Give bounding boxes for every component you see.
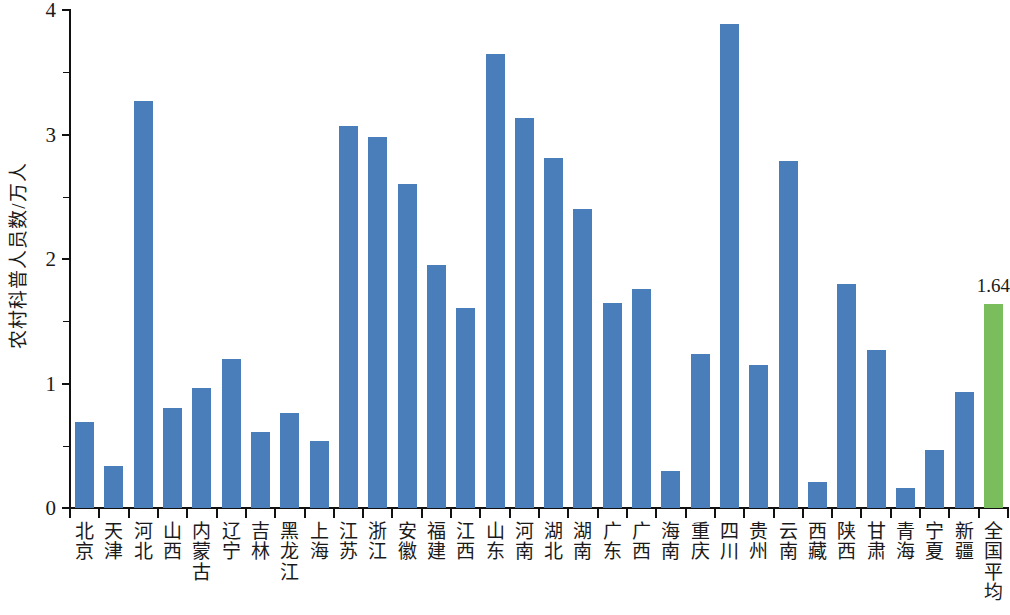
bar <box>427 265 446 508</box>
x-axis-category-label-char: 四 <box>717 522 743 542</box>
x-axis-tick <box>773 509 775 518</box>
x-axis-category-label: 黑龙江 <box>277 522 303 583</box>
x-axis-tick <box>567 509 569 518</box>
y-axis-minor-tick <box>63 446 71 447</box>
x-axis-category-label: 宁夏 <box>922 522 948 563</box>
y-axis-minor-tick <box>63 321 71 322</box>
x-axis-category-label: 上海 <box>306 522 332 563</box>
x-axis-tick <box>948 509 950 518</box>
y-axis-tick <box>62 9 71 11</box>
x-axis-category-label: 山东 <box>482 522 508 563</box>
bar-chart: 农村科普人员数/万人 01234 1.64 北京天津河北山西内蒙古辽宁吉林黑龙江… <box>0 0 1010 615</box>
x-axis-category-label: 江苏 <box>335 522 361 563</box>
y-axis-tick-label: 2 <box>28 249 56 270</box>
x-axis-category-label: 河北 <box>130 522 156 563</box>
x-axis-category-label-char: 州 <box>746 542 772 562</box>
y-axis-tick-label: 1 <box>28 373 56 394</box>
x-axis-category-label-char: 上 <box>306 522 332 542</box>
y-axis-tick <box>62 134 71 136</box>
x-axis-category-label-char: 广 <box>599 522 625 542</box>
x-axis-tick <box>421 509 423 518</box>
x-axis-tick <box>362 509 364 518</box>
x-axis-tick <box>186 509 188 518</box>
bar <box>720 24 739 508</box>
bar <box>779 161 798 508</box>
bar <box>75 422 94 508</box>
x-axis-category-label-char: 云 <box>775 522 801 542</box>
bar <box>661 471 680 508</box>
x-axis-category-label-char: 北 <box>130 542 156 562</box>
x-axis-category-label: 青海 <box>892 522 918 563</box>
bar <box>867 350 886 508</box>
bar <box>456 308 475 508</box>
x-axis-category-label: 天津 <box>101 522 127 563</box>
x-axis-category-label: 吉林 <box>248 522 274 563</box>
x-axis-category-label-char: 平 <box>980 563 1006 583</box>
bar <box>192 388 211 508</box>
x-axis-category-label-char: 国 <box>980 542 1006 562</box>
x-axis-tick <box>597 509 599 518</box>
x-axis-category-label-char: 徽 <box>394 542 420 562</box>
bar <box>808 482 827 508</box>
x-axis-category-label-char: 湖 <box>541 522 567 542</box>
bar <box>163 408 182 508</box>
x-axis-category-label: 海南 <box>658 522 684 563</box>
x-axis-category-label-char: 陕 <box>834 522 860 542</box>
bar <box>925 450 944 509</box>
x-axis-tick <box>831 509 833 518</box>
x-axis-category-label: 安徽 <box>394 522 420 563</box>
x-axis-category-label-char: 江 <box>453 522 479 542</box>
x-axis-category-label-char: 贵 <box>746 522 772 542</box>
x-axis-category-label: 贵州 <box>746 522 772 563</box>
x-axis-category-label-char: 西 <box>804 522 830 542</box>
bar <box>222 359 241 508</box>
x-axis-category-label-char: 建 <box>423 542 449 562</box>
x-axis-category-label: 西藏 <box>804 522 830 563</box>
x-axis-tick <box>128 509 130 518</box>
x-axis-category-label-char: 天 <box>101 522 127 542</box>
bar <box>134 101 153 508</box>
x-axis-category-label: 江西 <box>453 522 479 563</box>
x-axis-category-label-char: 南 <box>775 542 801 562</box>
x-axis-category-label-char: 河 <box>130 522 156 542</box>
x-axis-tick <box>890 509 892 518</box>
x-axis-category-label: 新疆 <box>951 522 977 563</box>
x-axis-category-label: 甘肃 <box>863 522 889 563</box>
x-axis-category-label: 四川 <box>717 522 743 563</box>
bar <box>280 413 299 508</box>
y-axis-tick-label: 4 <box>28 0 56 21</box>
x-axis-tick <box>802 509 804 518</box>
x-axis-category-label-char: 福 <box>423 522 449 542</box>
x-axis-category-label-char: 海 <box>892 542 918 562</box>
x-axis-category-label-char: 林 <box>248 542 274 562</box>
bar <box>251 432 270 508</box>
x-axis-category-label-char: 庆 <box>687 542 713 562</box>
x-axis-tick <box>157 509 159 518</box>
bar <box>573 209 592 508</box>
x-axis-category-label: 辽宁 <box>218 522 244 563</box>
x-axis-category-label: 湖北 <box>541 522 567 563</box>
x-axis-category-label-char: 东 <box>599 542 625 562</box>
x-axis-tick <box>479 509 481 518</box>
x-axis-category-label: 广东 <box>599 522 625 563</box>
x-axis-category-label-char: 夏 <box>922 542 948 562</box>
x-axis-category-label-char: 江 <box>365 542 391 562</box>
x-axis-category-label-char: 北 <box>72 522 98 542</box>
x-axis-category-label-char: 南 <box>658 542 684 562</box>
x-axis-category-label: 内蒙古 <box>189 522 215 583</box>
bar <box>515 118 534 508</box>
x-axis-category-label-char: 江 <box>277 563 303 583</box>
x-axis-category-label: 山西 <box>160 522 186 563</box>
bar <box>310 441 329 508</box>
x-axis-tick <box>685 509 687 518</box>
x-axis-category-label-char: 黑 <box>277 522 303 542</box>
x-axis-category-label: 湖南 <box>570 522 596 563</box>
bar <box>398 184 417 508</box>
x-axis-category-label-char: 海 <box>658 522 684 542</box>
bar <box>544 158 563 508</box>
x-axis-category-label-char: 古 <box>189 563 215 583</box>
y-axis-tick <box>62 383 71 385</box>
x-axis-tick <box>860 509 862 518</box>
x-axis-tick <box>69 509 71 518</box>
x-axis-category-label-char: 京 <box>72 542 98 562</box>
